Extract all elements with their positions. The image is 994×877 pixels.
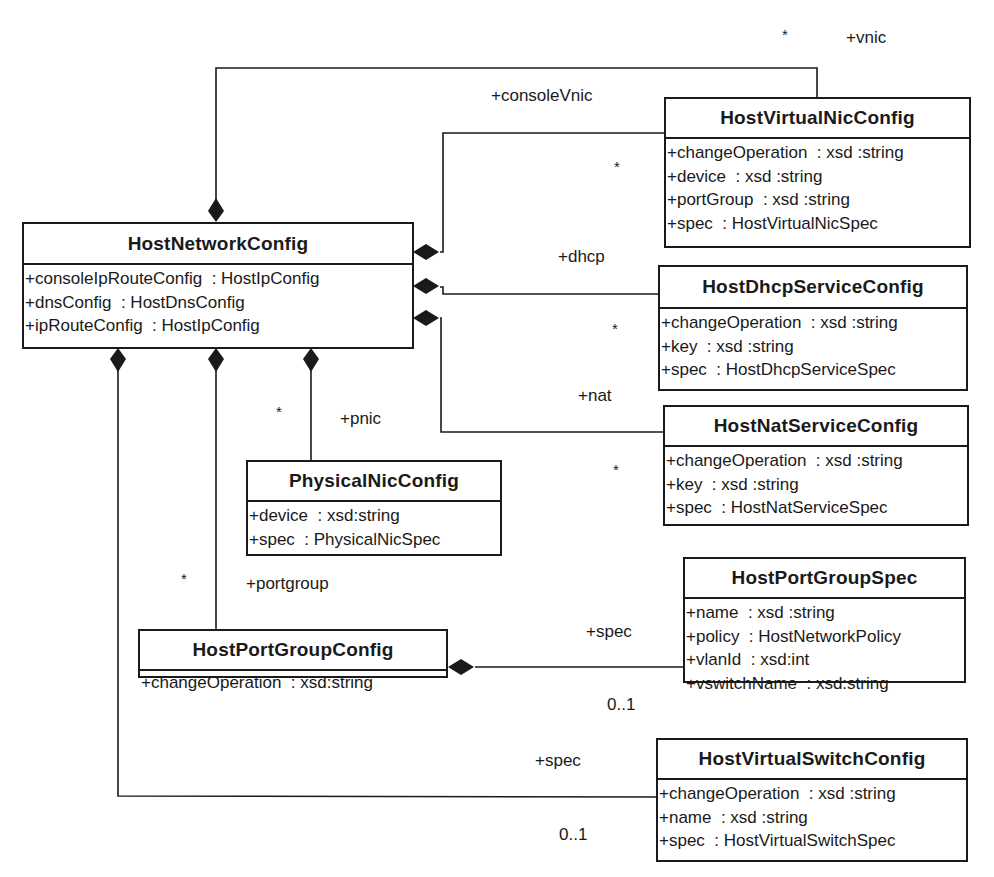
class-name: HostDhcpServiceConfig	[660, 267, 966, 309]
nat-role-label: +nat	[578, 386, 612, 406]
class-attribute: +name : xsd :string	[686, 601, 964, 625]
class-name: HostVirtualSwitchConfig	[658, 740, 966, 780]
dhcp-association-line	[440, 287, 658, 294]
class-attribute: +spec : HostDhcpServiceSpec	[661, 358, 966, 382]
class-host-port-group-config: HostPortGroupConfig +changeOperation : x…	[138, 629, 448, 678]
class-physical-nic-config: PhysicalNicConfig +device : xsd:string +…	[246, 460, 502, 556]
composition-diamond-icon	[413, 310, 439, 326]
pnic-role-label: +pnic	[340, 409, 381, 429]
class-attribute: +changeOperation : xsd:string	[141, 671, 446, 695]
portgroup-role-label: +portgroup	[246, 574, 329, 594]
class-attribute: +portGroup : xsd :string	[667, 188, 969, 212]
class-host-nat-service-config: HostNatServiceConfig +changeOperation : …	[663, 405, 969, 526]
class-attribute: +consoleIpRouteConfig : HostIpConfig	[25, 267, 412, 291]
vswitch-spec-association-line	[118, 370, 656, 797]
composition-diamond-icon	[448, 659, 474, 675]
dhcp-multiplicity: *	[612, 320, 618, 337]
console-vnic-multiplicity: *	[614, 158, 620, 175]
class-host-virtual-switch-config: HostVirtualSwitchConfig +changeOperation…	[656, 738, 968, 862]
class-attribute: +spec : HostVirtualSwitchSpec	[659, 829, 966, 853]
class-attribute: +changeOperation : xsd :string	[659, 782, 966, 806]
class-host-network-config: HostNetworkConfig +consoleIpRouteConfig …	[22, 222, 414, 349]
composition-diamond-icon	[208, 348, 224, 372]
class-attribute: +key : xsd :string	[666, 473, 967, 497]
class-attribute: +spec : PhysicalNicSpec	[249, 528, 500, 552]
console-vnic-role-label: +consoleVnic	[491, 86, 593, 106]
class-name: HostPortGroupConfig	[140, 631, 446, 671]
class-attribute: +spec : HostVirtualNicSpec	[667, 212, 969, 236]
class-name: PhysicalNicConfig	[248, 462, 500, 502]
dhcp-role-label: +dhcp	[558, 247, 605, 267]
class-name: HostNetworkConfig	[24, 224, 412, 265]
portgroup-spec-role-label: +spec	[586, 622, 632, 642]
class-attribute: +changeOperation : xsd :string	[667, 141, 969, 165]
class-attribute: +dnsConfig : HostDnsConfig	[25, 291, 412, 315]
class-attribute: +vswitchName : xsd:string	[686, 672, 964, 696]
class-host-port-group-spec: HostPortGroupSpec +name : xsd :string +p…	[683, 557, 966, 683]
class-name: HostVirtualNicConfig	[666, 99, 969, 139]
vswitch-spec-role-label: +spec	[535, 751, 581, 771]
composition-diamond-icon	[413, 278, 439, 294]
class-attribute: +key : xsd :string	[661, 335, 966, 359]
class-attribute: +changeOperation : xsd :string	[661, 311, 966, 335]
class-attribute: +device : xsd:string	[249, 504, 500, 528]
class-name: HostNatServiceConfig	[665, 407, 967, 447]
vswitch-spec-multiplicity: 0..1	[559, 825, 587, 845]
composition-diamond-icon	[110, 348, 126, 372]
console-vnic-association-line	[440, 133, 664, 252]
vnic-role-label: +vnic	[846, 28, 886, 48]
class-host-virtual-nic-config: HostVirtualNicConfig +changeOperation : …	[664, 97, 971, 248]
pnic-multiplicity: *	[276, 403, 282, 420]
class-attribute: +device : xsd :string	[667, 165, 969, 189]
nat-multiplicity: *	[613, 461, 619, 478]
class-attribute: +name : xsd :string	[659, 806, 966, 830]
composition-diamond-icon	[413, 244, 439, 260]
nat-association-line	[440, 318, 663, 432]
vnic-multiplicity: *	[782, 26, 788, 43]
class-attribute: +policy : HostNetworkPolicy	[686, 625, 964, 649]
class-attribute: +ipRouteConfig : HostIpConfig	[25, 314, 412, 338]
class-attribute: +changeOperation : xsd :string	[666, 449, 967, 473]
portgroup-multiplicity: *	[181, 570, 187, 587]
class-name: HostPortGroupSpec	[685, 559, 964, 599]
class-host-dhcp-service-config: HostDhcpServiceConfig +changeOperation :…	[658, 265, 968, 391]
class-attribute: +vlanId : xsd:int	[686, 648, 964, 672]
portgroup-spec-multiplicity: 0..1	[607, 695, 635, 715]
composition-diamond-icon	[208, 198, 224, 222]
composition-diamond-icon	[303, 348, 319, 372]
class-attribute: +spec : HostNatServiceSpec	[666, 496, 967, 520]
